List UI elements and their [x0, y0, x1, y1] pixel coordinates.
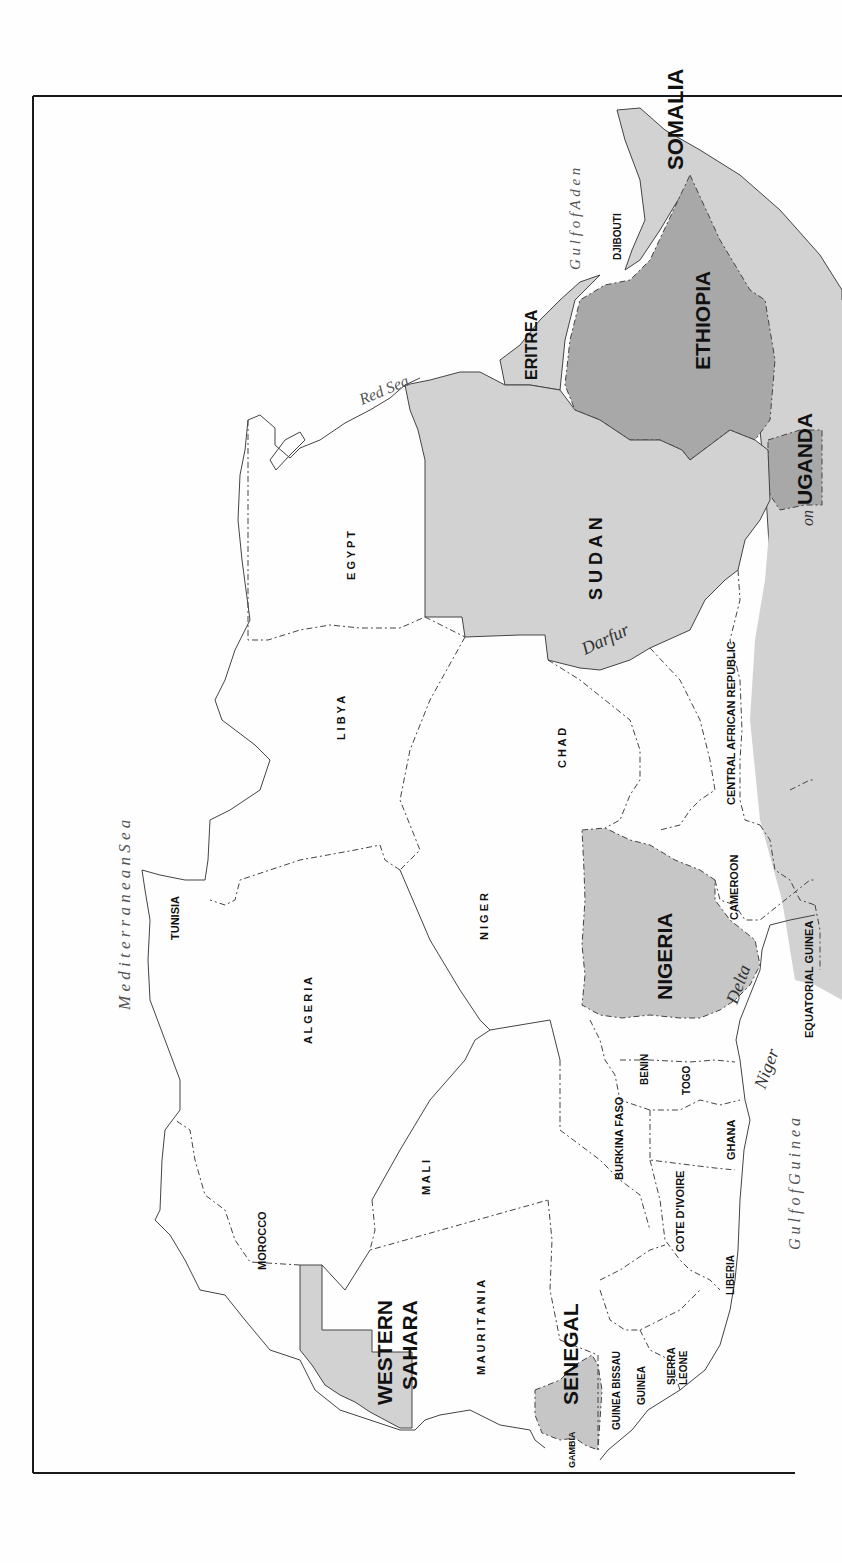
label-morocco: MOROCCO	[256, 1211, 268, 1270]
label-guinea: GUINEA	[636, 1366, 647, 1405]
label-togo: TOGO	[681, 1066, 692, 1095]
label-cameroon: CAMEROON	[728, 855, 740, 920]
label-equatorial-guinea: EQUATORIAL GUINEA	[803, 921, 815, 1038]
uganda-partial-label: uo	[802, 510, 819, 526]
label-sudan: S U D A N	[586, 517, 606, 600]
label-chad: C H A D	[556, 728, 568, 768]
label-somalia: SOMALIA	[663, 68, 688, 170]
africa-map: M e d i t e r r a n e a n S e a Red Sea …	[0, 0, 842, 1563]
niger-label: Niger	[750, 1045, 783, 1092]
mediterranean-sea-label: M e d i t e r r a n e a n S e a	[115, 820, 134, 1011]
label-burkina-faso: BURKINA FASO	[613, 1096, 625, 1180]
label-senegal: SENEGAL	[559, 1303, 582, 1405]
label-gambia: GAMBIA	[567, 1431, 577, 1468]
label-mali: M A L I	[420, 1160, 432, 1195]
label-egypt: E G Y P T	[345, 531, 357, 580]
label-sierra-leone-1: SIERRA	[666, 1347, 677, 1385]
label-niger: N I G E R	[478, 893, 490, 940]
gulf-of-guinea-label: G u l f o f G u i n e a	[786, 1118, 804, 1250]
label-mauritania: M A U R I T A N I A	[475, 1280, 487, 1375]
label-western-sahara-1: WESTERN	[373, 1300, 396, 1405]
label-central-african-republic: CENTRAL AFRICAN REPUBLIC	[725, 641, 737, 805]
solid-borders	[322, 870, 560, 1290]
label-uganda: UGANDA	[793, 413, 816, 505]
label-liberia: LIBERIA	[725, 1255, 736, 1295]
label-eritrea: ERITREA	[523, 309, 540, 380]
label-libya: L I B Y A	[335, 696, 347, 740]
label-benin: BENIN	[639, 1054, 650, 1085]
label-western-sahara-2: SAHARA	[398, 1300, 421, 1390]
label-guinea-bissau: GUINEA BISSAU	[611, 1351, 622, 1430]
red-sea-label: Red Sea	[356, 372, 411, 408]
gulf-of-aden-label: G u l f o f A d e n	[567, 168, 583, 270]
label-djibouti: DJIBOUTI	[612, 213, 623, 260]
label-cote-divoire: COTE D'IVOIRE	[674, 1171, 686, 1252]
label-nigeria: NIGERIA	[653, 912, 676, 1000]
label-algeria: A L G E R I A	[302, 977, 314, 1044]
label-tunisia: TUNISIA	[169, 896, 181, 940]
label-ghana: GHANA	[725, 1120, 737, 1160]
label-ethiopia: ETHIOPIA	[691, 271, 714, 370]
label-sierra-leone-2: LEONE	[678, 1350, 689, 1385]
